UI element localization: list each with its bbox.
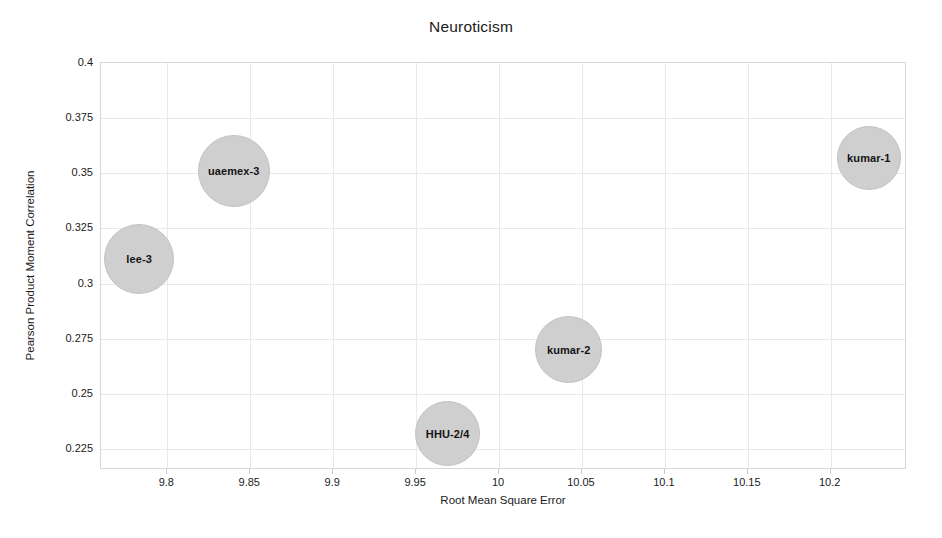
y-axis-ticks: 0.40.3750.350.3250.30.2750.250.225 xyxy=(40,0,93,538)
y-tick-label: 0.275 xyxy=(65,332,93,344)
x-tick-label: 9.95 xyxy=(404,476,425,488)
bubble-label: kumar-2 xyxy=(547,344,591,356)
y-tick-label: 0.325 xyxy=(65,221,93,233)
gridline-vertical xyxy=(250,63,251,468)
gridline-vertical xyxy=(748,63,749,468)
x-tick-label: 10 xyxy=(492,476,504,488)
gridline-vertical xyxy=(333,63,334,468)
chart-title: Neuroticism xyxy=(0,18,942,36)
gridline-vertical xyxy=(665,63,666,468)
x-tick-label: 9.9 xyxy=(325,476,340,488)
x-axis-title: Root Mean Square Error xyxy=(100,494,906,506)
gridline-horizontal xyxy=(101,394,905,395)
gridline-horizontal xyxy=(101,228,905,229)
x-tick-label: 10.15 xyxy=(733,476,761,488)
y-axis-title: Pearson Product Moment Correlation xyxy=(24,62,36,469)
x-tick-label: 9.8 xyxy=(159,476,174,488)
x-tick-mark xyxy=(415,469,416,474)
x-tick-mark xyxy=(166,469,167,474)
bubble-point[interactable]: uaemex-3 xyxy=(198,135,270,207)
x-tick-mark xyxy=(747,469,748,474)
bubble-point[interactable]: kumar-2 xyxy=(535,316,602,383)
gridline-horizontal xyxy=(101,118,905,119)
x-tick-mark xyxy=(249,469,250,474)
x-tick-mark xyxy=(498,469,499,474)
gridline-vertical xyxy=(416,63,417,468)
plot-area: lee-3uaemex-3HHU-2/4kumar-2kumar-1 xyxy=(100,62,906,469)
gridline-vertical xyxy=(582,63,583,468)
x-tick-mark xyxy=(332,469,333,474)
x-tick-mark xyxy=(581,469,582,474)
gridline-horizontal xyxy=(101,449,905,450)
x-tick-label: 10.1 xyxy=(653,476,674,488)
x-tick-label: 9.85 xyxy=(239,476,260,488)
bubble-point[interactable]: HHU-2/4 xyxy=(415,401,480,466)
bubble-chart: Neuroticism lee-3uaemex-3HHU-2/4kumar-2k… xyxy=(0,0,942,538)
bubble-label: uaemex-3 xyxy=(208,165,260,177)
x-tick-mark xyxy=(830,469,831,474)
gridline-vertical xyxy=(499,63,500,468)
x-tick-label: 10.2 xyxy=(819,476,840,488)
bubble-label: HHU-2/4 xyxy=(426,428,470,440)
y-tick-label: 0.4 xyxy=(78,56,93,68)
y-tick-label: 0.375 xyxy=(65,111,93,123)
x-tick-mark xyxy=(664,469,665,474)
gridline-vertical xyxy=(831,63,832,468)
y-tick-label: 0.225 xyxy=(65,442,93,454)
y-tick-label: 0.3 xyxy=(78,277,93,289)
y-tick-label: 0.25 xyxy=(72,387,93,399)
bubble-label: kumar-1 xyxy=(847,152,891,164)
x-tick-label: 10.05 xyxy=(567,476,595,488)
gridline-horizontal xyxy=(101,339,905,340)
y-tick-label: 0.35 xyxy=(72,166,93,178)
bubble-label: lee-3 xyxy=(126,253,152,265)
bubble-point[interactable]: lee-3 xyxy=(104,224,174,294)
gridline-horizontal xyxy=(101,284,905,285)
bubble-point[interactable]: kumar-1 xyxy=(837,126,901,190)
